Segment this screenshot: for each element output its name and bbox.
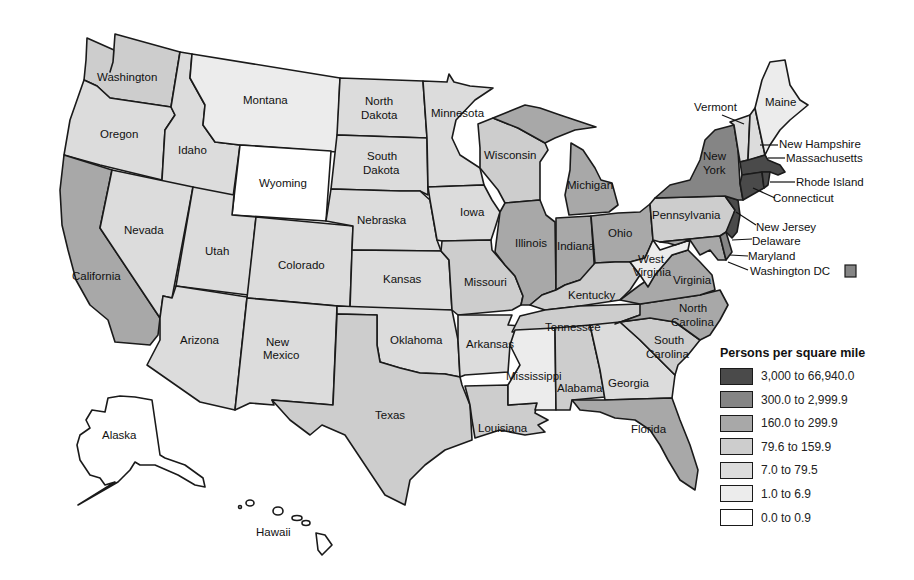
legend-label: 0.0 to 0.9: [761, 511, 811, 525]
legend-label: 1.0 to 6.9: [761, 487, 811, 501]
legend-item: 7.0 to 79.5: [720, 459, 910, 481]
svg-text:West: West: [638, 253, 665, 265]
svg-text:North: North: [679, 302, 707, 314]
svg-text:Rhode Island: Rhode Island: [796, 176, 864, 188]
svg-text:California: California: [72, 270, 121, 282]
svg-text:Nebraska: Nebraska: [357, 214, 407, 226]
legend-item: 3,000 to 66,940.0: [720, 365, 910, 387]
svg-text:New: New: [703, 150, 727, 162]
state-florida[interactable]: [572, 398, 698, 490]
svg-text:York: York: [703, 164, 726, 176]
svg-text:Maine: Maine: [765, 96, 796, 108]
legend-swatch: [720, 368, 753, 385]
svg-text:Texas: Texas: [375, 409, 405, 421]
svg-text:New: New: [266, 336, 290, 348]
svg-text:Iowa: Iowa: [460, 206, 485, 218]
svg-text:New Jersey: New Jersey: [756, 221, 816, 233]
svg-text:Washington DC: Washington DC: [750, 265, 830, 277]
legend-title: Persons per square mile: [720, 346, 910, 360]
svg-text:Wisconsin: Wisconsin: [484, 149, 536, 161]
svg-text:Ohio: Ohio: [608, 227, 632, 239]
svg-text:Kansas: Kansas: [383, 273, 422, 285]
svg-text:Delaware: Delaware: [752, 235, 801, 247]
state-alaska[interactable]: [77, 396, 205, 505]
legend-label: 300.0 to 2,999.9: [761, 393, 848, 407]
svg-text:Utah: Utah: [205, 245, 229, 257]
svg-text:Indiana: Indiana: [557, 240, 595, 252]
svg-text:Mississippi: Mississippi: [506, 370, 562, 382]
legend-swatch: [720, 415, 753, 432]
legend-swatch: [720, 485, 753, 502]
svg-text:Dakota: Dakota: [363, 164, 400, 176]
svg-text:South: South: [654, 334, 684, 346]
state-new-york[interactable]: [655, 125, 743, 200]
state-north-dakota[interactable]: [337, 78, 427, 138]
svg-text:Tennessee: Tennessee: [545, 321, 601, 333]
legend-swatch: [720, 462, 753, 479]
svg-text:Arkansas: Arkansas: [466, 338, 514, 350]
svg-text:Missouri: Missouri: [464, 276, 507, 288]
svg-text:Massachusetts: Massachusetts: [786, 152, 863, 164]
svg-text:Virginia: Virginia: [673, 274, 712, 286]
svg-text:Carolina: Carolina: [646, 348, 689, 360]
svg-text:Hawaii: Hawaii: [256, 526, 291, 538]
svg-text:Michigan: Michigan: [567, 179, 613, 191]
legend-label: 160.0 to 299.9: [761, 416, 838, 430]
svg-text:Kentucky: Kentucky: [568, 289, 616, 301]
legend-label: 3,000 to 66,940.0: [761, 369, 854, 383]
svg-text:North: North: [365, 95, 393, 107]
state-arizona[interactable]: [147, 286, 247, 410]
svg-text:Alaska: Alaska: [102, 429, 137, 441]
legend-item: 160.0 to 299.9: [720, 412, 910, 434]
legend-swatch: [720, 438, 753, 455]
svg-text:Nevada: Nevada: [124, 224, 164, 236]
legend-label: 79.6 to 159.9: [761, 440, 831, 454]
svg-text:Maryland: Maryland: [748, 250, 795, 262]
svg-text:South: South: [367, 150, 397, 162]
legend-item: 79.6 to 159.9: [720, 436, 910, 458]
svg-text:Carolina: Carolina: [671, 316, 714, 328]
svg-text:Illinois: Illinois: [515, 237, 547, 249]
legend-item: 1.0 to 6.9: [720, 483, 910, 505]
svg-text:Oklahoma: Oklahoma: [390, 334, 443, 346]
legend-swatch: [720, 509, 753, 526]
legend-label: 7.0 to 79.5: [761, 463, 818, 477]
svg-text:Georgia: Georgia: [608, 377, 650, 389]
legend-swatch: [720, 391, 753, 408]
svg-text:Louisiana: Louisiana: [478, 422, 528, 434]
svg-text:Idaho: Idaho: [178, 144, 207, 156]
state-connecticut[interactable]: [740, 172, 764, 200]
svg-text:Arizona: Arizona: [180, 334, 220, 346]
legend-item: 300.0 to 2,999.9: [720, 389, 910, 411]
svg-text:Mexico: Mexico: [263, 349, 299, 361]
svg-text:Vermont: Vermont: [694, 101, 738, 113]
legend: Persons per square mile 3,000 to 66,940.…: [720, 346, 910, 530]
svg-text:Minnesota: Minnesota: [431, 107, 485, 119]
svg-text:Florida: Florida: [631, 423, 667, 435]
legend-item: 0.0 to 0.9: [720, 507, 910, 529]
svg-text:Virginia: Virginia: [633, 266, 672, 278]
svg-text:Colorado: Colorado: [278, 259, 325, 271]
svg-text:Wyoming: Wyoming: [259, 177, 307, 189]
state-rhode-island[interactable]: [762, 172, 770, 188]
svg-text:Pennsylvania: Pennsylvania: [652, 209, 721, 221]
washington-dc-swatch: [845, 265, 856, 277]
svg-text:Connecticut: Connecticut: [773, 192, 835, 204]
svg-text:Dakota: Dakota: [361, 109, 398, 121]
svg-text:New Hampshire: New Hampshire: [779, 138, 861, 150]
svg-text:Montana: Montana: [243, 94, 288, 106]
state-mississippi[interactable]: [508, 328, 556, 410]
svg-text:Alabama: Alabama: [557, 382, 603, 394]
svg-text:Oregon: Oregon: [100, 128, 138, 140]
svg-text:Washington: Washington: [97, 71, 157, 83]
